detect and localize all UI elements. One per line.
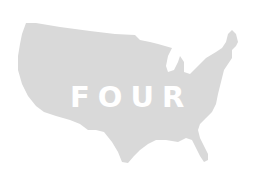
- map-label: FOUR: [70, 82, 180, 112]
